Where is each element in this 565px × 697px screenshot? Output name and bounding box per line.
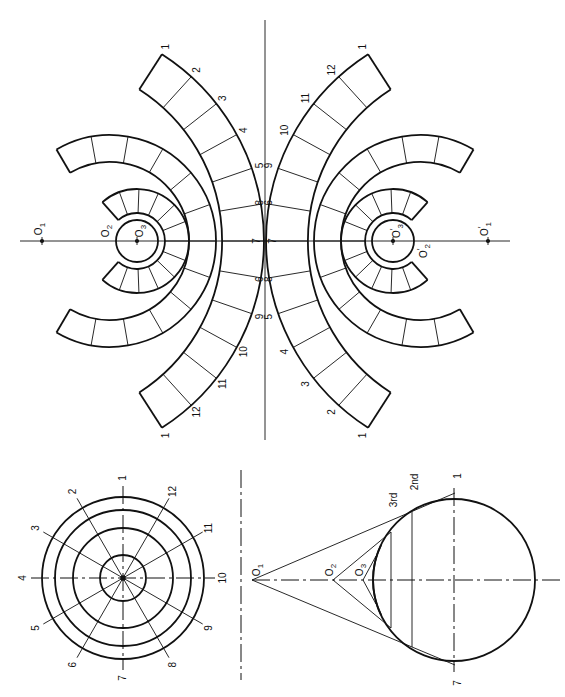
division-line bbox=[460, 149, 474, 172]
division-label: 1 bbox=[160, 432, 171, 438]
division-line bbox=[269, 204, 310, 211]
division-line bbox=[402, 267, 410, 290]
division-line bbox=[200, 135, 237, 155]
label-end-1: 1 bbox=[452, 473, 463, 479]
division-line bbox=[163, 222, 185, 231]
division-line bbox=[170, 292, 191, 309]
division-line bbox=[119, 267, 127, 290]
division-label: 12 bbox=[191, 406, 202, 418]
label-o3-prime: O′3 bbox=[388, 223, 405, 237]
plan-division-label-6: 6 bbox=[67, 661, 78, 667]
division-line bbox=[184, 268, 209, 277]
division-line bbox=[345, 251, 367, 260]
division-line bbox=[402, 137, 407, 164]
division-line bbox=[434, 319, 439, 346]
division-line bbox=[367, 310, 380, 333]
label-o1: O1 bbox=[33, 222, 47, 235]
division-line bbox=[157, 260, 174, 277]
division-label: 1 bbox=[160, 43, 171, 49]
division-line bbox=[412, 262, 428, 280]
division-line bbox=[200, 327, 237, 347]
division-label: 3 bbox=[300, 381, 311, 387]
plan-division-label-5: 5 bbox=[30, 625, 41, 631]
division-line bbox=[402, 319, 407, 346]
division-line bbox=[434, 137, 439, 164]
elev-label-o1: O1 bbox=[251, 563, 265, 576]
division-line bbox=[278, 300, 318, 314]
division-line bbox=[157, 205, 174, 222]
division-line bbox=[56, 149, 70, 172]
division-line bbox=[356, 205, 373, 222]
division-line bbox=[183, 104, 216, 130]
division-line bbox=[123, 319, 128, 346]
division-line bbox=[138, 189, 139, 213]
label-o2-prime: O′2 bbox=[415, 243, 432, 257]
cone-1-lower bbox=[252, 580, 455, 665]
division-label: 2 bbox=[326, 409, 337, 415]
division-line bbox=[138, 269, 139, 293]
division-line bbox=[368, 392, 391, 427]
plan-division-label-10: 10 bbox=[217, 572, 228, 584]
division-line bbox=[91, 137, 96, 164]
division-label: 5 bbox=[263, 313, 274, 319]
plan-division-label-11: 11 bbox=[203, 522, 214, 533]
division-label: 11 bbox=[217, 378, 228, 389]
division-line bbox=[56, 309, 70, 332]
division-line bbox=[170, 173, 191, 190]
division-line bbox=[391, 189, 392, 213]
division-line bbox=[320, 268, 345, 277]
division-line bbox=[148, 267, 158, 289]
label-o2: O2 bbox=[100, 224, 114, 237]
division-label: 8 bbox=[254, 199, 265, 205]
division-line bbox=[212, 168, 252, 182]
division-label: 12 bbox=[326, 64, 337, 76]
division-label: 6 bbox=[254, 276, 265, 282]
division-line bbox=[91, 319, 96, 346]
division-line bbox=[102, 262, 118, 280]
division-line bbox=[139, 392, 162, 427]
plan-division-label-2: 2 bbox=[67, 488, 78, 494]
plan-division-label-12: 12 bbox=[167, 485, 178, 497]
plan-division-label-7: 7 bbox=[117, 675, 128, 681]
plan-view-group: 123456789101112 bbox=[17, 475, 228, 681]
development-group: 12345678910111211234567891011121O1O2O3O′… bbox=[20, 20, 510, 440]
division-line bbox=[372, 194, 382, 216]
division-line bbox=[372, 267, 382, 289]
division-line bbox=[102, 202, 118, 220]
division-line bbox=[391, 269, 392, 293]
division-line bbox=[339, 374, 367, 405]
sphere-development-drawing: 12345678910111211234567891011121O1O2O3O′… bbox=[0, 0, 565, 697]
division-line bbox=[278, 168, 318, 182]
division-line bbox=[368, 54, 391, 89]
division-line bbox=[183, 352, 216, 378]
plan-division-label-1: 1 bbox=[117, 475, 128, 481]
division-line bbox=[345, 222, 367, 231]
cone-1-upper bbox=[252, 493, 455, 580]
label-3rd: 3rd bbox=[388, 493, 399, 507]
division-line bbox=[314, 104, 347, 130]
elevation-view-group: O1O2O33rd2nd17 bbox=[241, 470, 560, 686]
elev-label-o2: O2 bbox=[324, 563, 338, 576]
division-label: 4 bbox=[279, 349, 290, 355]
division-line bbox=[339, 292, 360, 309]
plan-division-label-8: 8 bbox=[167, 661, 178, 667]
division-line bbox=[163, 251, 185, 260]
label-2nd: 2nd bbox=[409, 474, 420, 491]
division-line bbox=[163, 374, 191, 405]
division-label: 1 bbox=[357, 43, 368, 49]
division-line bbox=[460, 309, 474, 332]
division-line bbox=[148, 194, 158, 216]
division-line bbox=[269, 271, 310, 278]
division-line bbox=[314, 352, 347, 378]
division-label: 1 bbox=[357, 432, 368, 438]
label-o3: O3 bbox=[134, 224, 148, 237]
division-line bbox=[293, 135, 330, 155]
plan-division-label-3: 3 bbox=[30, 525, 41, 531]
division-line bbox=[184, 205, 209, 214]
label-o1-prime: O′1 bbox=[476, 221, 493, 235]
division-line bbox=[293, 327, 330, 347]
division-line bbox=[367, 149, 380, 172]
division-line bbox=[119, 192, 127, 215]
division-line bbox=[339, 173, 360, 190]
division-line bbox=[212, 300, 252, 314]
